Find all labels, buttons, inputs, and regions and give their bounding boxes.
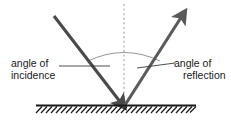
- label-reflection-line1: angle of: [174, 57, 226, 69]
- label-angle-of-incidence: angle of incidence: [11, 57, 55, 81]
- label-angle-of-reflection: angle of reflection: [174, 57, 226, 81]
- incident-ray: [54, 16, 121, 103]
- reflection-diagram: angle of incidence angle of reflection: [0, 0, 231, 129]
- label-reflection-line2: reflection: [174, 69, 226, 81]
- surface-hatching: [36, 107, 196, 114]
- label-incidence-line1: angle of: [11, 57, 55, 69]
- label-incidence-line2: incidence: [11, 69, 55, 81]
- leader-line-reflection: [137, 63, 175, 68]
